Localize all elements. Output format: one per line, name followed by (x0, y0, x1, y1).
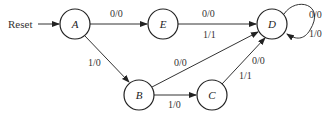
state-b: B (124, 80, 154, 110)
state-c: C (197, 80, 227, 110)
edge-e-d-label-top: 0/0 (202, 8, 215, 19)
edge-c-d-label-top: 0/0 (252, 55, 265, 66)
state-diagram: Reset 0/0 0/0 1/1 0/0 1/0 1/0 0/0 1/0 0/… (0, 0, 328, 118)
state-d-label: D (267, 18, 276, 30)
state-b-label: B (136, 89, 143, 101)
edge-e-d-label-bottom: 1/1 (203, 29, 216, 40)
state-d: D (257, 9, 287, 39)
edge-a-b-label: 1/0 (88, 57, 101, 68)
edge-b-c-label: 1/0 (168, 99, 181, 110)
edge-d-d-label-bottom: 1/0 (309, 28, 322, 39)
state-c-label: C (208, 89, 216, 101)
edge-c-d-label-bottom: 1/1 (239, 70, 252, 81)
state-a: A (60, 9, 90, 39)
state-a-label: A (71, 18, 79, 30)
edge-d-d-label-top: 0/0 (309, 9, 322, 20)
reset-label: Reset (8, 18, 32, 30)
edge-a-e-label: 0/0 (110, 8, 123, 19)
state-e-label: E (159, 18, 167, 30)
state-e: E (148, 9, 178, 39)
edge-b-d-label: 0/0 (174, 57, 187, 68)
